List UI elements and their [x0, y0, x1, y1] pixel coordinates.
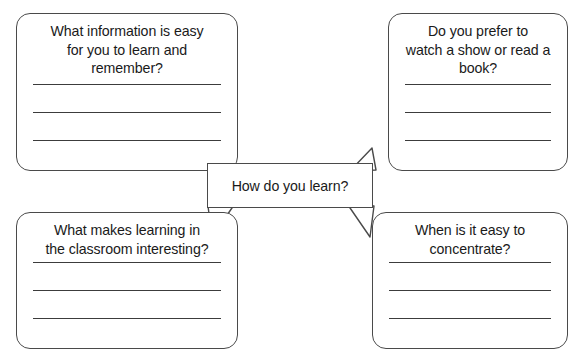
question-bubble-bottom-right: When is it easy to concentrate?	[372, 212, 568, 349]
answer-lines-bottom-right	[373, 262, 567, 348]
answer-line[interactable]	[33, 262, 221, 263]
answer-line[interactable]	[389, 262, 551, 263]
question-text-top-right: Do you prefer to watch a show or read a …	[389, 14, 567, 78]
question-bubble-top-right: Do you prefer to watch a show or read a …	[388, 13, 568, 171]
tail-bottom-right	[348, 205, 374, 237]
learning-styles-worksheet: What information is easy for you to lear…	[0, 0, 584, 359]
answer-line[interactable]	[33, 84, 221, 85]
question-bubble-top-left: What information is easy for you to lear…	[16, 13, 238, 171]
answer-line[interactable]	[33, 318, 221, 319]
answer-line[interactable]	[33, 112, 221, 113]
answer-line[interactable]	[405, 112, 551, 113]
center-topic-label: How do you learn?	[232, 178, 349, 194]
answer-line[interactable]	[33, 290, 221, 291]
answer-line[interactable]	[33, 140, 221, 141]
question-text-bottom-right: When is it easy to concentrate?	[373, 213, 567, 258]
answer-line[interactable]	[389, 290, 551, 291]
center-topic-box: How do you learn?	[207, 163, 373, 208]
page-header-ghost	[0, 0, 584, 3]
answer-line[interactable]	[405, 84, 551, 85]
answer-lines-top-left	[17, 84, 237, 170]
question-bubble-bottom-left: What makes learning in the classroom int…	[16, 212, 238, 349]
answer-lines-bottom-left	[17, 262, 237, 348]
answer-lines-top-right	[389, 84, 567, 170]
question-text-top-left: What information is easy for you to lear…	[17, 14, 237, 78]
answer-line[interactable]	[405, 140, 551, 141]
answer-line[interactable]	[389, 318, 551, 319]
question-text-bottom-left: What makes learning in the classroom int…	[17, 213, 237, 258]
